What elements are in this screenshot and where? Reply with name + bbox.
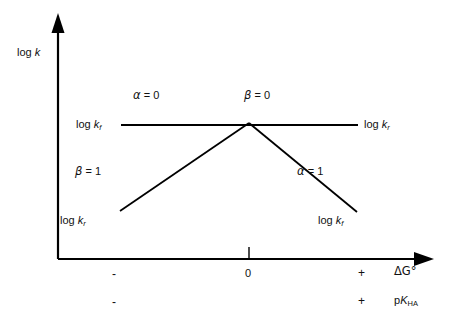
alpha-zero-value: = 0 bbox=[141, 89, 160, 101]
y-axis-label-symbol: k bbox=[35, 46, 41, 58]
beta-zero-value: = 0 bbox=[251, 89, 270, 101]
alpha-one-label: α = 1 bbox=[297, 166, 323, 178]
x-axis-label-pka: pKHA bbox=[394, 295, 418, 307]
plateau-left-subscript: f bbox=[99, 123, 101, 132]
x-axis-label-delta-g: ΔG° bbox=[394, 266, 417, 278]
falling-low-prefix: log bbox=[318, 214, 336, 226]
falling-low-subscript: f bbox=[341, 219, 343, 228]
beta-one-value: = 1 bbox=[82, 165, 101, 177]
y-axis-label-prefix: log bbox=[17, 46, 35, 58]
alpha-symbol: α bbox=[133, 88, 141, 102]
plateau-left-prefix: log bbox=[76, 118, 94, 130]
x-tick-zero: 0 bbox=[245, 268, 251, 279]
brønsted-plot-figure: log k α = 0 β = 0 log kf log kr β = 1 α … bbox=[0, 0, 453, 321]
x-tick-minus-row2: - bbox=[112, 296, 116, 308]
delta-g-text: ΔG° bbox=[394, 264, 417, 278]
alpha-zero-label: α = 0 bbox=[133, 90, 159, 102]
beta-zero-label: β = 0 bbox=[244, 90, 270, 102]
plateau-left-end-label: log kf bbox=[76, 119, 101, 131]
alpha-one-symbol: α bbox=[297, 164, 305, 178]
plateau-right-end-label: log kr bbox=[364, 119, 390, 131]
pka-subscript: HA bbox=[407, 299, 417, 308]
y-axis-arrow-icon bbox=[52, 13, 65, 33]
beta-one-label: β = 1 bbox=[75, 166, 101, 178]
alpha-one-value: = 1 bbox=[305, 165, 324, 177]
falling-low-end-label: log kf bbox=[318, 215, 343, 227]
y-axis-label: log k bbox=[17, 47, 40, 58]
rising-diagonal-line bbox=[120, 123, 249, 211]
rising-low-end-label: log kr bbox=[60, 215, 86, 227]
plot-canvas bbox=[0, 0, 453, 321]
plateau-right-subscript: r bbox=[387, 123, 390, 132]
x-axis-arrow-icon bbox=[414, 252, 434, 266]
x-tick-minus-row1: - bbox=[112, 268, 116, 280]
rising-low-subscript: r bbox=[83, 219, 86, 228]
x-tick-plus-row1: + bbox=[358, 267, 365, 279]
rising-low-prefix: log bbox=[60, 214, 78, 226]
x-tick-plus-row2: + bbox=[358, 295, 365, 307]
plateau-right-prefix: log bbox=[364, 118, 382, 130]
pka-prefix: pK bbox=[394, 294, 407, 306]
